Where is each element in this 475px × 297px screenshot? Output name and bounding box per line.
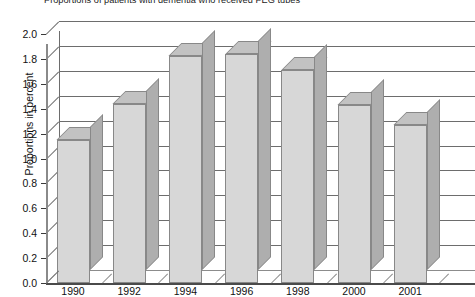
bar-front-face xyxy=(113,104,146,283)
bar-front-face xyxy=(169,56,202,283)
bar-front-face xyxy=(338,105,371,283)
bar-side-face xyxy=(90,114,103,270)
bar-side-face xyxy=(258,28,271,270)
y-axis-tick-label: 1.8 xyxy=(0,53,37,65)
bar xyxy=(281,57,314,283)
x-axis-tick-mark xyxy=(327,273,337,283)
x-axis-tick-label: 2001 xyxy=(380,285,440,297)
bar-side-face xyxy=(314,44,327,270)
y-axis-tick-label: 1.6 xyxy=(0,78,37,90)
y-axis-tick-label: 1.0 xyxy=(0,153,37,165)
depth-connector xyxy=(46,21,60,35)
y-axis-tick-label: 0.2 xyxy=(0,252,37,264)
bar xyxy=(225,41,258,283)
y-axis-tick-mark xyxy=(41,134,46,135)
y-axis-tick-label: 0.4 xyxy=(0,227,37,239)
y-axis-tick-mark xyxy=(41,109,46,110)
gridline xyxy=(59,21,475,22)
bar xyxy=(338,92,371,283)
bar-front-face xyxy=(281,70,314,283)
y-axis-tick-label: 2.0 xyxy=(0,28,37,40)
y-axis-tick-label: 0.8 xyxy=(0,177,37,189)
bar xyxy=(113,91,146,283)
x-axis-tick-label: 1990 xyxy=(43,285,103,297)
y-axis-tick-mark xyxy=(41,84,46,85)
bar-chart: Proportions of patients with dementia wh… xyxy=(0,0,475,297)
y-axis-tick-label: 1.4 xyxy=(0,103,37,115)
x-axis-tick-mark xyxy=(102,273,112,283)
y-axis-tick-mark xyxy=(41,208,46,209)
y-axis-tick-mark xyxy=(41,183,46,184)
bar-front-face xyxy=(57,140,90,283)
y-axis-tick-mark xyxy=(41,283,46,284)
x-axis-tick-label: 2000 xyxy=(324,285,384,297)
x-axis-tick-label: 1996 xyxy=(212,285,272,297)
x-axis-tick-mark xyxy=(159,273,169,283)
bar xyxy=(169,43,202,283)
bar-side-face xyxy=(371,79,384,270)
bar-side-face xyxy=(146,78,159,270)
x-axis-tick-mark xyxy=(271,273,281,283)
x-axis-tick-mark xyxy=(440,273,450,283)
y-axis-line xyxy=(46,44,48,284)
bar-front-face xyxy=(394,125,427,283)
x-axis-tick-mark xyxy=(383,273,393,283)
bar-side-face xyxy=(202,30,215,270)
y-axis-tick-mark xyxy=(41,59,46,60)
bar-front-face xyxy=(225,54,258,283)
bar-side-face xyxy=(427,99,440,270)
x-axis-tick-label: 1992 xyxy=(99,285,159,297)
x-axis-tick-label: 1998 xyxy=(268,285,328,297)
y-axis-tick-label: 0.6 xyxy=(0,202,37,214)
y-axis-tick-label: 0.0 xyxy=(0,277,37,289)
bar xyxy=(57,127,90,283)
y-axis-tick-mark xyxy=(41,159,46,160)
y-axis-tick-label: 1.2 xyxy=(0,128,37,140)
y-axis-tick-mark xyxy=(41,34,46,35)
x-axis-tick-mark xyxy=(215,273,225,283)
y-axis-tick-mark xyxy=(41,258,46,259)
y-axis-tick-mark xyxy=(41,233,46,234)
plot-area: 0.00.20.40.60.81.01.21.41.61.82.0 199019… xyxy=(0,0,475,297)
x-axis-tick-label: 1994 xyxy=(155,285,215,297)
bar xyxy=(394,112,427,283)
